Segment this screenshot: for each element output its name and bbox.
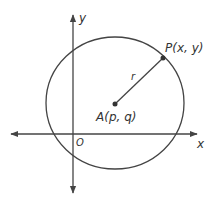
center-point (113, 102, 118, 107)
origin-label: O (76, 137, 84, 148)
circle-point (161, 56, 166, 61)
x-axis-label: x (196, 137, 205, 151)
y-axis-label: y (78, 11, 87, 25)
circle-diagram: y x O A(p, q) P(x, y) r (0, 0, 221, 205)
point-label: P(x, y) (165, 41, 203, 55)
radius-segment (115, 58, 163, 104)
radius-label: r (131, 71, 136, 82)
center-label: A(p, q) (95, 110, 136, 124)
